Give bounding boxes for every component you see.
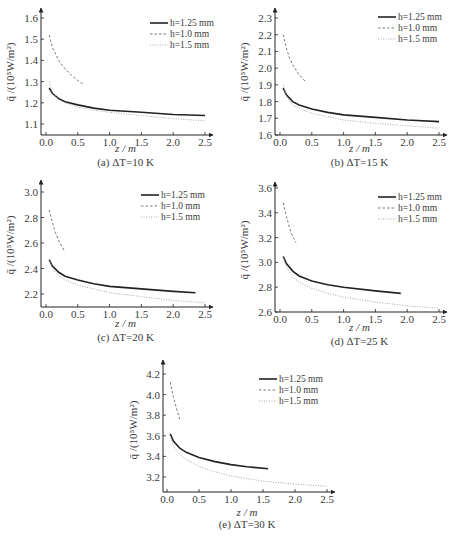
x-axis-label: z / m [236,506,258,518]
x-tick-label: 1.5 [135,308,149,320]
y-tick-label: 1.8 [258,96,272,108]
x-axis-label: z / m [114,317,136,329]
x-tick-label: 0.5 [71,308,85,320]
legend-label: h=1.25 mm [279,374,323,384]
y-axis-label: q̄ /(10⁵W/m²) [238,220,251,279]
legend-label: h=1.25 mm [170,18,214,28]
legend: h=1.25 mmh=1.0 mmh=1.5 mm [150,18,214,50]
x-tick-label: 0.5 [71,136,85,148]
chart-panel-a: 0.00.51.01.52.02.51.11.21.31.41.51.6h=1.… [4,8,214,169]
y-tick-label: 2.0 [258,62,272,74]
x-tick-label: 2.0 [400,313,414,325]
panel-caption: (d) ΔT=25 K [331,335,388,348]
y-tick-label: 3.4 [258,207,272,219]
y-tick-label: 2.1 [258,45,272,57]
y-tick-label: 2.6 [258,306,272,318]
legend-label: h=1.5 mm [161,212,201,222]
series-line [49,210,65,252]
x-tick-label: 1.0 [224,493,238,505]
legend-label: h=1.0 mm [161,201,201,211]
x-tick-label: 0.5 [305,136,319,148]
series-line [49,35,84,85]
panel-caption: (b) ΔT=15 K [331,156,388,169]
x-axis-label: z / m [114,142,136,154]
x-tick-label: 1.5 [135,136,149,148]
x-tick-label: 2.0 [166,136,180,148]
y-tick-label: 1.9 [258,79,272,91]
x-axis-label: z / m [348,321,370,333]
legend: h=1.25 mmh=1.0 mmh=1.5 mm [378,192,442,224]
y-tick-label: 1.6 [258,129,272,141]
x-tick-label: 0.5 [305,313,319,325]
y-tick-label: 2.4 [24,263,38,275]
y-tick-label: 2.8 [258,281,272,293]
chart-panel-c: 0.00.51.01.52.02.52.22.42.62.83.0h=1.25 … [4,180,213,344]
y-tick-label: 2.8 [24,212,38,224]
y-tick-label: 3.6 [146,430,160,442]
x-tick-label: 0.0 [160,493,174,505]
panel-caption: (c) ΔT=20 K [97,331,154,344]
y-tick-label: 4.0 [146,389,160,401]
series-line [49,260,195,293]
chart-panel-b: 0.00.51.01.52.02.51.61.71.81.92.02.12.22… [238,8,447,169]
legend-label: h=1.5 mm [170,40,210,50]
panels: 0.00.51.01.52.02.51.11.21.31.41.51.6h=1.… [4,8,447,531]
series-line [283,256,439,308]
y-axis-label: q̄ /(10⁵W/m²) [238,42,251,101]
legend-label: h=1.0 mm [398,203,438,213]
x-tick-label: 2.5 [320,493,334,505]
y-tick-label: 1.1 [24,118,38,130]
x-tick-label: 2.5 [432,136,446,148]
legend-label: h=1.25 mm [161,190,205,200]
legend-label: h=1.5 mm [398,214,438,224]
x-tick-label: 1.5 [369,313,383,325]
y-tick-label: 4.2 [146,368,160,380]
legend-label: h=1.25 mm [398,12,442,22]
y-axis-label: q̄ /(10⁵W/m²) [127,400,140,459]
legend-label: h=1.25 mm [398,192,442,202]
chart-panel-d: 0.00.51.01.52.02.52.62.83.03.23.43.6h=1.… [238,182,447,348]
series-line [170,382,180,419]
y-tick-label: 2.3 [258,12,272,24]
y-tick-label: 3.2 [258,232,272,244]
y-tick-label: 3.0 [258,256,272,268]
x-tick-label: 2.5 [432,313,446,325]
y-tick-label: 3.8 [146,409,160,421]
legend-label: h=1.0 mm [398,23,438,33]
y-tick-label: 1.3 [24,76,38,88]
series-line [170,434,268,469]
series-line [49,88,205,116]
legend-label: h=1.5 mm [398,34,438,44]
series-line [170,436,327,487]
panel-caption: (a) ΔT=10 K [97,156,154,169]
series-line [283,256,401,293]
x-tick-label: 1.5 [369,136,383,148]
y-tick-label: 2.6 [24,237,38,249]
y-tick-label: 1.5 [24,33,38,45]
x-tick-label: 0.0 [39,308,53,320]
x-tick-label: 2.0 [400,136,414,148]
legend: h=1.25 mmh=1.0 mmh=1.5 mm [259,374,323,406]
y-tick-label: 3.0 [24,186,38,198]
y-tick-label: 1.2 [24,97,38,109]
legend-label: h=1.0 mm [170,29,210,39]
y-axis-label: q̄ /(10⁵W/m²) [4,215,17,274]
legend-label: h=1.5 mm [279,396,319,406]
y-tick-label: 2.2 [24,288,38,300]
legend: h=1.25 mmh=1.0 mmh=1.5 mm [141,190,205,222]
series-line [49,260,205,303]
x-tick-label: 2.0 [288,493,302,505]
series-line [283,35,305,82]
x-axis-label: z / m [348,142,370,154]
x-tick-label: 0.0 [39,136,53,148]
x-tick-label: 0.0 [273,136,287,148]
figure: 0.00.51.01.52.02.51.11.21.31.41.51.6h=1.… [0,0,453,542]
series-line [283,203,296,243]
y-tick-label: 1.4 [24,54,38,66]
y-tick-label: 3.4 [146,450,160,462]
x-tick-label: 2.0 [166,308,180,320]
y-tick-label: 1.7 [258,112,272,124]
x-tick-label: 2.5 [198,308,212,320]
x-tick-label: 2.5 [198,136,212,148]
y-tick-label: 3.6 [258,182,272,194]
